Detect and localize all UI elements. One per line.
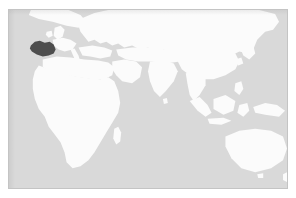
- map-page: [0, 0, 296, 198]
- landmass-borneo: [214, 95, 236, 115]
- landmass-india: [148, 60, 178, 97]
- landmass-indochina: [186, 71, 206, 101]
- landmass-east-asia: [176, 48, 240, 80]
- map-frame: [8, 9, 288, 189]
- world-map-svg: [9, 10, 287, 188]
- landmass-philippines: [234, 81, 243, 95]
- landmass-balkans-anatolia: [79, 46, 113, 59]
- landmass-british-isles: [54, 26, 65, 40]
- landmass-sulawesi: [237, 103, 249, 117]
- landmass-australia: [225, 129, 287, 173]
- landmass-greenland: [29, 10, 87, 28]
- landmass-arabia: [112, 59, 142, 83]
- landmass-new-zealand: [283, 172, 287, 182]
- landmass-madagascar: [113, 127, 121, 145]
- landmass-africa: [33, 65, 120, 168]
- landmass-java: [208, 118, 232, 125]
- highlight-region-spain: [30, 41, 56, 57]
- landmass-tasmania: [257, 173, 263, 178]
- landmass-new-guinea: [253, 103, 285, 117]
- landmass-sumatra: [190, 97, 212, 117]
- landmass-ireland: [46, 31, 53, 38]
- landmass-sri-lanka: [163, 98, 168, 104]
